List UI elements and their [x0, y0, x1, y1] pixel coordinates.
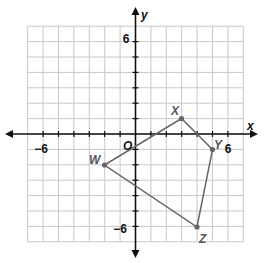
vertex-label-z: Z: [198, 232, 207, 246]
x-tick-label-neg6: −6: [34, 142, 48, 156]
coordinate-plane: −6 6 6 −6 O x y W X Y Z: [0, 0, 264, 263]
y-axis-up-arrow-icon: [132, 7, 140, 15]
origin-label: O: [123, 139, 133, 153]
y-tick-label-6: 6: [123, 32, 130, 46]
y-axis-down-arrow-icon: [132, 250, 140, 258]
y-axis-label: y: [140, 8, 149, 22]
vertex-label-w: W: [89, 153, 102, 167]
vertex-label-y: Y: [214, 138, 223, 152]
vertex-label-x: X: [170, 104, 180, 118]
y-tick-label-neg6: −6: [113, 222, 127, 236]
x-axis-label: x: [246, 119, 255, 133]
x-tick-label-6: 6: [225, 142, 232, 156]
x-axis-left-arrow-icon: [5, 130, 13, 138]
